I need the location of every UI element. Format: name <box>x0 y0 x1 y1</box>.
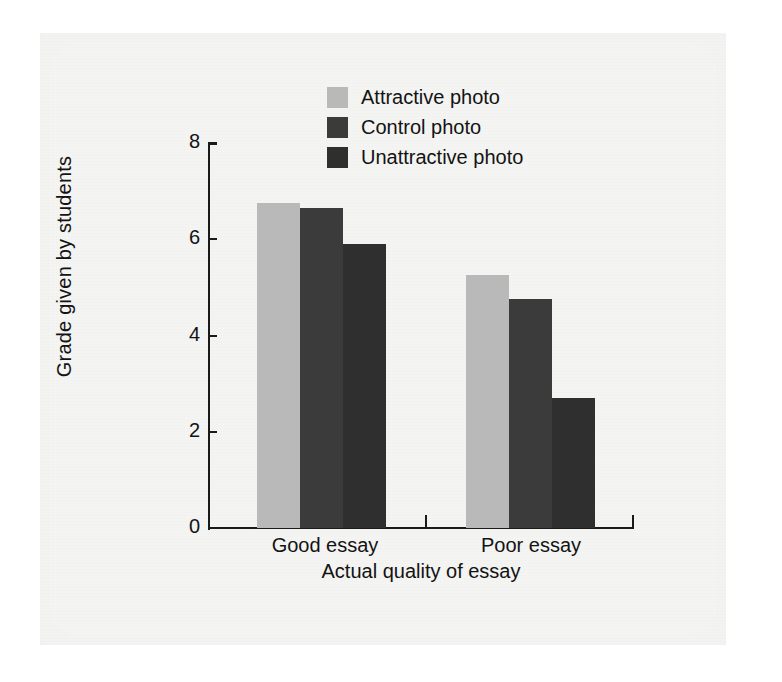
x-axis-group-label-poor-essay: Poor essay <box>436 534 626 557</box>
bar-good-essay-unattractive-photo <box>343 244 386 528</box>
bars-layer <box>0 143 782 528</box>
legend-item-attractive-photo: Attractive photo <box>327 86 523 109</box>
legend-label-control-photo: Control photo <box>361 117 481 138</box>
bar-poor-essay-control-photo <box>509 299 552 528</box>
x-axis-title: Actual quality of essay <box>208 560 634 583</box>
y-axis-title: Grade given by students <box>53 117 76 417</box>
bar-good-essay-attractive-photo <box>257 203 300 528</box>
bar-chart-figure: Attractive photo Control photo Unattract… <box>0 0 782 682</box>
legend-item-control-photo: Control photo <box>327 116 523 139</box>
bar-good-essay-control-photo <box>300 208 343 528</box>
legend-label-attractive-photo: Attractive photo <box>361 87 500 108</box>
x-axis-group-label-good-essay: Good essay <box>230 534 420 557</box>
legend-swatch-attractive-photo <box>327 87 348 108</box>
bar-poor-essay-attractive-photo <box>466 275 509 528</box>
bar-poor-essay-unattractive-photo <box>552 398 595 528</box>
legend-swatch-control-photo <box>327 117 348 138</box>
